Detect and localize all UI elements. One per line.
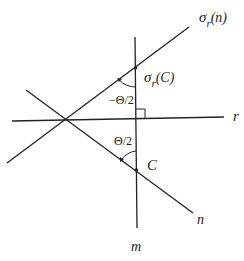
right-angle-marker [136,109,145,118]
label-sigma-r-n: σr(n) [199,9,227,29]
point-c [135,168,139,172]
diagram-canvas: σr(n) σr(C) −Θ/2 Θ/2 r C n m [0,0,244,261]
line-n [26,90,193,213]
label-angle-upper: −Θ/2 [109,93,134,107]
label-n: n [197,212,204,227]
label-r: r [233,108,239,124]
angle-arc-upper [119,80,136,87]
label-angle-lower: Θ/2 [114,134,132,148]
label-c: C [147,157,158,173]
point-sigma-r-c [134,66,138,70]
label-sigma-r-c: σr(C) [144,69,175,89]
label-m: m [131,239,141,254]
reflection-diagram: σr(n) σr(C) −Θ/2 Θ/2 r C n m [0,0,244,261]
angle-arc-lower [121,151,136,160]
line-r [12,117,224,121]
